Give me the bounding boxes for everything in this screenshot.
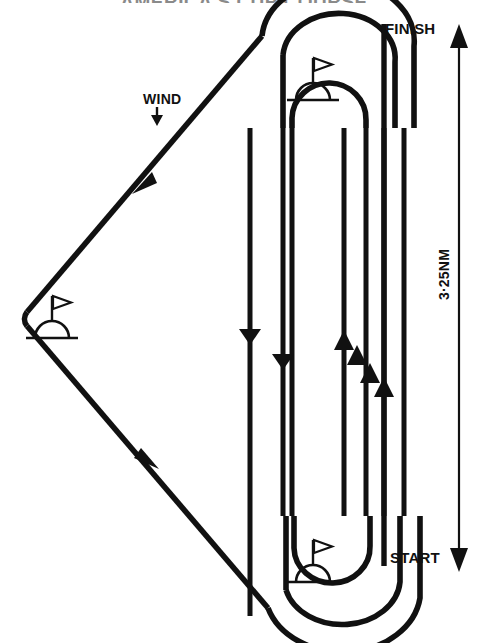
wind-label: WIND: [143, 92, 182, 106]
vertical-legs: [250, 128, 404, 616]
direction-arrows: [132, 172, 394, 469]
start-label: START: [390, 550, 440, 565]
distance-label: 3·25NM: [437, 249, 451, 300]
course-track-group: [24, 0, 420, 643]
arrow-up-a: [334, 330, 354, 350]
course-diagram: AMERICA'S CUP COURSE: [0, 0, 488, 643]
dimension-arrow-top: [450, 24, 468, 48]
finish-label: FINISH: [385, 21, 435, 36]
inner-course-loop: [292, 83, 370, 583]
arrow-down-a: [239, 329, 261, 345]
mark-windward: [287, 58, 339, 100]
wind-arrow: [151, 107, 163, 126]
course-svg: [0, 0, 488, 643]
distance-dimension-arrow: [450, 24, 468, 572]
arrow-up-c: [360, 363, 380, 383]
dimension-arrow-bottom: [450, 548, 468, 572]
